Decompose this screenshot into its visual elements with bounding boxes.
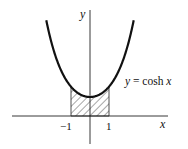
tick-label-1: 1: [106, 120, 112, 132]
cosh-diagram: y x −1 1 y = cosh x: [0, 0, 188, 149]
x-axis-label: x: [159, 117, 166, 131]
y-axis-label: y: [79, 7, 86, 21]
tick-label-neg1: −1: [60, 120, 72, 132]
function-label: y = cosh x: [124, 75, 172, 88]
